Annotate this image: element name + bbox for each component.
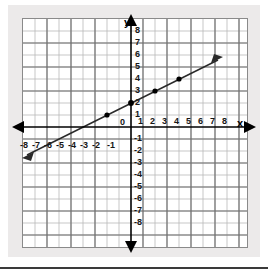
y-tick-label-4: 4: [135, 74, 140, 83]
x-axis-left-arrow: [12, 121, 24, 133]
x-tick-label-neg1: -1: [107, 141, 115, 150]
y-tick-label-neg4: -4: [134, 170, 142, 179]
x-tick-label-6: 6: [198, 117, 203, 126]
y-tick-label-1: 1: [135, 110, 140, 119]
x-tick-label-4: 4: [174, 117, 179, 126]
x-tick-label-neg8: -8: [20, 141, 28, 150]
x-tick-label-8: 8: [222, 117, 227, 126]
y-tick-label-neg3: -3: [134, 158, 142, 167]
y-tick-label-neg2: -2: [134, 146, 142, 155]
x-tick-label-neg2: -2: [92, 141, 100, 150]
bottom-divider: [0, 267, 268, 269]
y-tick-label-8: 8: [135, 26, 140, 35]
x-tick-label-5: 5: [186, 117, 191, 126]
x-tick-label-neg6: -6: [44, 141, 52, 150]
y-tick-label-neg7: -7: [134, 206, 142, 215]
y-tick-label-7: 7: [135, 38, 140, 47]
coordinate-plane-figure: y x 0 -8 -7 -6 -5 -4 -3 -2 -1 1 2 3 4 5 …: [0, 0, 268, 273]
x-tick-label-7: 7: [210, 117, 215, 126]
y-tick-label-5: 5: [135, 62, 140, 71]
origin-label: 0: [120, 118, 125, 127]
y-tick-label-neg6: -6: [134, 194, 142, 203]
y-axis-label: y: [124, 17, 130, 28]
x-tick-label-neg3: -3: [80, 141, 88, 150]
y-tick-label-6: 6: [135, 50, 140, 59]
y-tick-label-neg1: -1: [134, 134, 142, 143]
x-axis-right-arrow: [244, 121, 256, 133]
y-tick-label-neg5: -5: [134, 182, 142, 191]
y-tick-label-neg8: -8: [134, 218, 142, 227]
y-tick-label-2: 2: [135, 98, 140, 107]
x-tick-label-2: 2: [150, 117, 155, 126]
x-axis-label: x: [237, 118, 243, 129]
x-tick-label-neg7: -7: [32, 141, 40, 150]
x-tick-label-neg4: -4: [68, 141, 76, 150]
y-axis-down-arrow: [125, 241, 137, 253]
x-tick-label-3: 3: [162, 117, 167, 126]
x-tick-label-neg5: -5: [56, 141, 64, 150]
y-tick-label-3: 3: [135, 86, 140, 95]
